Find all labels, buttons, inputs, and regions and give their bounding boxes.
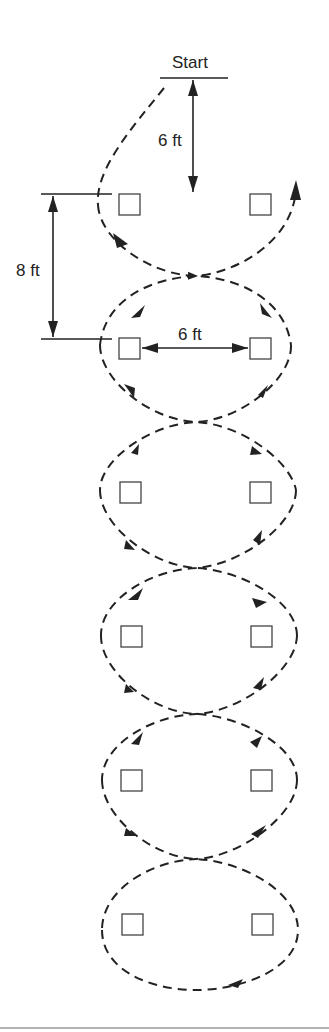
cone-marker	[252, 914, 273, 935]
arrow-head-icon	[131, 732, 143, 745]
direction-arrows	[113, 180, 301, 988]
arrow-head-icon	[142, 343, 158, 353]
arrow-head-icon	[188, 80, 198, 96]
figure-eight-cone-drill-diagram: Start 6 ft 8 ft 6 ft	[0, 0, 329, 1032]
cone-marker	[121, 626, 142, 647]
start-distance-label: 6 ft	[158, 131, 182, 150]
arrow-head-icon	[48, 196, 58, 212]
cone-marker	[121, 770, 142, 791]
arrow-head-icon	[128, 588, 143, 600]
cone-marker	[251, 626, 272, 647]
arrow-head-icon	[250, 736, 262, 748]
cone-marker	[250, 338, 271, 359]
arrow-head-icon	[113, 233, 128, 248]
cone-marker	[119, 338, 140, 359]
arrow-head-icon	[232, 343, 248, 353]
cone-marker	[122, 914, 143, 935]
cone-marker	[119, 194, 140, 215]
cone-marker	[250, 194, 271, 215]
arrow-head-icon	[250, 446, 262, 455]
cone-spacing-label: 6 ft	[178, 325, 202, 344]
arrow-head-icon	[290, 180, 301, 200]
row-spacing-label: 8 ft	[16, 261, 40, 280]
arrow-head-icon	[188, 176, 198, 192]
arrow-head-icon	[124, 828, 136, 836]
cone-marker	[251, 770, 272, 791]
cone-marker	[250, 482, 271, 503]
start-label: Start	[172, 53, 208, 72]
cone-marker	[120, 482, 141, 503]
arrow-head-icon	[252, 598, 267, 608]
running-path	[98, 88, 298, 990]
arrow-head-icon	[48, 321, 58, 337]
arrow-head-icon	[131, 305, 145, 318]
arrow-head-icon	[124, 540, 135, 550]
cones	[119, 194, 273, 935]
